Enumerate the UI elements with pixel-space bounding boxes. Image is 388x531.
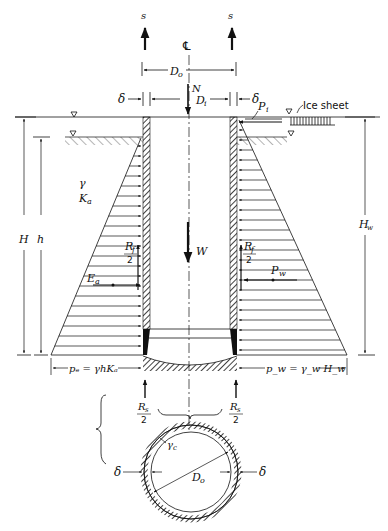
svg-text:i: i: [204, 99, 207, 108]
svg-text:H: H: [18, 233, 29, 246]
svg-text:2: 2: [127, 255, 133, 265]
soil-surface: [65, 131, 294, 145]
s-right-label: s: [228, 10, 233, 21]
svg-text:i: i: [266, 105, 269, 114]
svg-text:c: c: [173, 444, 177, 452]
svg-text:w: w: [367, 224, 373, 232]
svg-text:a: a: [95, 277, 100, 286]
svg-text:o: o: [200, 476, 205, 485]
svg-text:2: 2: [233, 415, 239, 425]
ice-pressure: P i: [239, 100, 282, 122]
svg-text:2: 2: [141, 415, 147, 425]
base-reactions: R s 2 R s 2: [137, 380, 243, 425]
caisson-diagram: s s ℄ D o δ δ D i N: [0, 0, 388, 531]
svg-text:a: a: [87, 197, 92, 206]
svg-text:δ: δ: [114, 465, 121, 479]
svg-text:w: w: [279, 269, 286, 278]
water-pressure-diagram: P w: [237, 120, 347, 355]
ice-sheet-label: Ice sheet: [303, 100, 349, 111]
s-left-label: s: [141, 10, 146, 21]
inner-diameter-dimension: δ δ D i N: [118, 83, 259, 114]
water-height-dimension: H w: [345, 117, 375, 355]
svg-text:h: h: [37, 233, 44, 246]
section-brace: [96, 395, 106, 464]
svg-text:δ: δ: [259, 465, 266, 479]
water-pressure-formula: p_w = γ_w H_w: [266, 363, 346, 375]
svg-text:2: 2: [246, 255, 252, 265]
centerline-symbol: ℄: [182, 39, 191, 53]
svg-text:W: W: [196, 245, 209, 258]
earth-pressure-formula: pₑ = γhKₐ: [69, 363, 118, 374]
cross-section: D o γ c δ δ: [114, 425, 266, 519]
svg-text:P: P: [270, 264, 279, 277]
svg-text:s: s: [237, 406, 241, 414]
svg-text:s: s: [145, 406, 149, 414]
caisson-walls: [143, 117, 237, 371]
svg-text:P: P: [257, 100, 266, 113]
svg-text:E: E: [86, 272, 95, 285]
svg-text:δ: δ: [118, 92, 125, 106]
height-dimensions: H h: [15, 117, 50, 355]
svg-text:f: f: [250, 245, 256, 254]
weight-arrow: W: [188, 222, 209, 262]
svg-text:γ: γ: [79, 177, 86, 190]
svg-text:N: N: [191, 83, 202, 94]
ice-sheet: Ice sheet: [290, 100, 349, 125]
svg-text:o: o: [178, 70, 183, 79]
